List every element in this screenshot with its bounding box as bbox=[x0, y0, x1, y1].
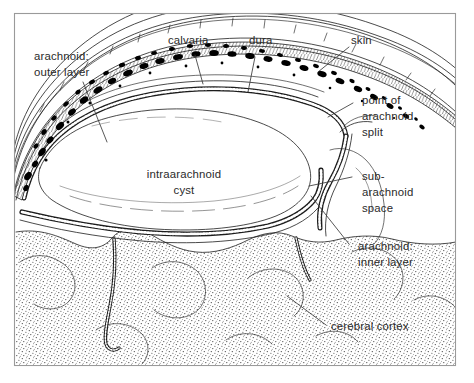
label-subarachnoid-space-line1: sub- bbox=[362, 170, 385, 182]
label-skin: skin bbox=[351, 34, 372, 46]
label-point-of-split-line3: split bbox=[362, 126, 384, 138]
label-subarachnoid-space-line2: arachnoid bbox=[362, 186, 413, 198]
anatomical-diagram: Intraarachnoid cyst — coronal section th… bbox=[0, 0, 474, 383]
label-calvaria: calvaria bbox=[168, 34, 209, 46]
label-intraarachnoid-cyst-line1: intraarachnoid bbox=[147, 168, 221, 180]
label-arachnoid-inner-line2: inner layer bbox=[358, 256, 413, 268]
label-cerebral-cortex: cerebral cortex bbox=[331, 320, 409, 332]
label-subarachnoid-space-line3: space bbox=[362, 202, 393, 214]
label-intraarachnoid-cyst-line2: cyst bbox=[174, 184, 196, 196]
label-point-of-split-line1: point of bbox=[362, 94, 401, 106]
label-arachnoid-outer-line1: arachnoid: bbox=[34, 50, 89, 62]
label-arachnoid-outer-line2: outer layer bbox=[34, 66, 90, 78]
label-point-of-split-line2: arachnoid bbox=[362, 110, 413, 122]
label-dura: dura bbox=[249, 34, 273, 46]
figure-root: Intraarachnoid cyst — coronal section th… bbox=[0, 0, 474, 383]
label-arachnoid-inner-line1: arachnoid: bbox=[358, 240, 413, 252]
